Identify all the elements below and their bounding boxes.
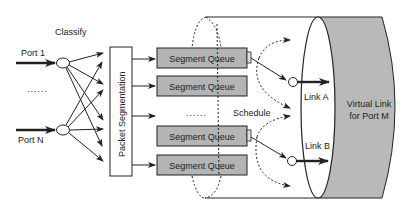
segment-queue: Segment Queue bbox=[157, 126, 251, 146]
packet-segmentation-box: Packet Segmentation bbox=[110, 47, 132, 176]
tube-back-dashed-line bbox=[217, 24, 219, 176]
segment-queue: Segment Queue bbox=[157, 48, 251, 68]
classifier-node-port-1 bbox=[57, 58, 70, 68]
packet-segmentation-label: Packet Segmentation bbox=[117, 71, 127, 157]
port-n-label: Port N bbox=[18, 135, 44, 145]
segment-queue: Segment Queue bbox=[157, 155, 247, 175]
segment-queue-label: Segment Queue bbox=[169, 161, 235, 171]
queue-head-marker bbox=[247, 52, 251, 63]
link-a-node bbox=[289, 78, 298, 87]
classifier-node-port-n bbox=[57, 125, 70, 135]
classify-label: Classify bbox=[55, 27, 87, 37]
virtual-link-label-line2: for Port M bbox=[349, 111, 389, 121]
queue-head-marker bbox=[247, 130, 251, 141]
link-b-label: Link B bbox=[305, 141, 330, 151]
schedule-label: Schedule bbox=[233, 108, 271, 118]
ports-ellipsis: ...... bbox=[27, 84, 48, 94]
classify-fanout-arrows bbox=[66, 53, 103, 161]
segment-queue-label: Segment Queue bbox=[169, 82, 235, 92]
segment-queue-label: Segment Queue bbox=[169, 54, 235, 64]
queue-ellipsis: ...... bbox=[186, 108, 207, 118]
segment-queue-label: Segment Queue bbox=[169, 132, 235, 142]
segment-queue: Segment Queue bbox=[157, 76, 247, 96]
link-a-label: Link A bbox=[304, 92, 329, 102]
segmentation-to-queue-arrows bbox=[132, 59, 155, 165]
link-b-node bbox=[288, 157, 297, 166]
port-1-label: Port 1 bbox=[21, 48, 45, 58]
virtual-link-diagram: Classify Port 1 Port N ...... Packet Seg… bbox=[0, 0, 410, 213]
schedule-arrow-link-a bbox=[251, 58, 286, 80]
virtual-link-label-line1: Virtual Link bbox=[347, 99, 392, 109]
